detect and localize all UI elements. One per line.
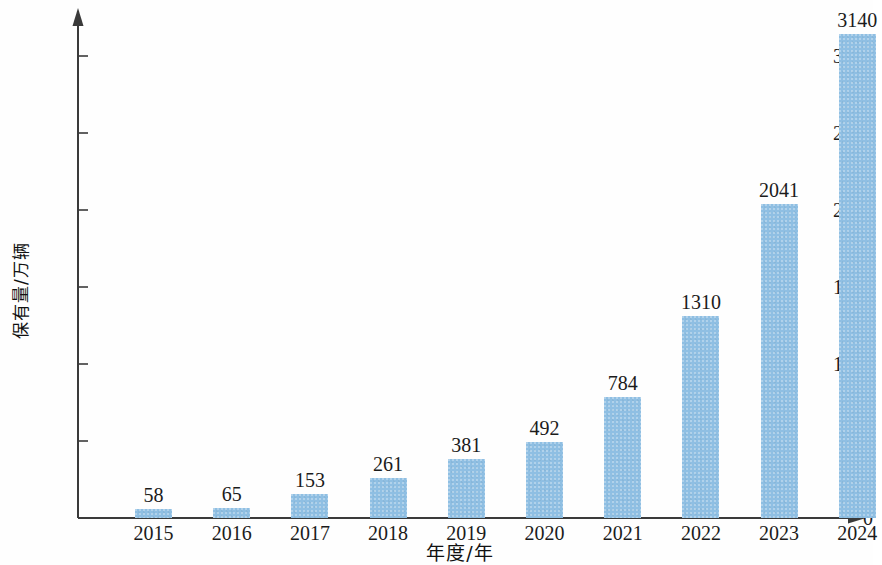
bar-value-label-2023: 2041 xyxy=(739,180,819,200)
x-tick-label-2017: 2017 xyxy=(270,523,350,543)
bar-2023 xyxy=(761,204,798,518)
bar-2024 xyxy=(839,34,876,518)
bar-2020 xyxy=(526,442,563,518)
bar-value-label-2015: 58 xyxy=(114,485,194,505)
x-tick-label-2021: 2021 xyxy=(583,523,663,543)
x-tick-label-2024: 2024 xyxy=(817,523,882,543)
bar-value-label-2019: 381 xyxy=(426,435,506,455)
bar-2015 xyxy=(135,509,172,518)
bar-2019 xyxy=(448,459,485,518)
x-axis-title: 年度/年 xyxy=(380,538,540,565)
y-axis-arrowhead xyxy=(73,8,84,26)
x-tick-label-2023: 2023 xyxy=(739,523,819,543)
bar-value-label-2024: 3140 xyxy=(817,10,882,30)
bar-value-label-2017: 153 xyxy=(270,470,350,490)
bar-value-label-2021: 784 xyxy=(583,373,663,393)
bar-2017 xyxy=(291,494,328,518)
bar-value-label-2018: 261 xyxy=(348,454,428,474)
bar-value-label-2016: 65 xyxy=(192,484,272,504)
bar-2022 xyxy=(682,316,719,518)
bar-2018 xyxy=(370,478,407,518)
bar-2016 xyxy=(213,508,250,518)
bar-value-label-2020: 492 xyxy=(505,418,585,438)
y-axis-title: 保有量/万辆 xyxy=(7,176,32,406)
bar-2021 xyxy=(604,397,641,518)
bar-value-label-2022: 1310 xyxy=(661,292,741,312)
x-tick-label-2015: 2015 xyxy=(114,523,194,543)
x-tick-label-2016: 2016 xyxy=(192,523,272,543)
y-axis-ticks xyxy=(78,56,88,441)
x-tick-label-2022: 2022 xyxy=(661,523,741,543)
